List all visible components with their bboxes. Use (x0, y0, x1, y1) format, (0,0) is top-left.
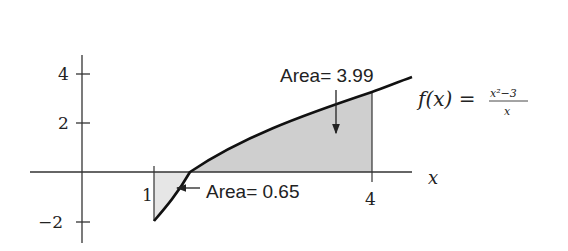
x-axis-label: x (428, 167, 438, 188)
function-numerator: x²−3 (490, 87, 517, 100)
y-tick-label-neg2: −2 (38, 212, 63, 232)
negative-area-label: Area= 0.65 (206, 181, 300, 202)
x-tick-label-4: 4 (365, 189, 376, 209)
function-label: f(x) = (416, 87, 475, 111)
y-tick-label-4: 4 (58, 64, 69, 84)
positive-area-label: Area= 3.99 (280, 65, 374, 86)
function-denominator: x (504, 105, 511, 118)
x-tick-label-1: 1 (142, 185, 153, 205)
y-tick-label-2: 2 (58, 113, 69, 133)
positive-area-region (190, 92, 372, 172)
integral-diagram: 4 2 −2 1 4 x Area= 3.99 Area= 0.65 f(x) … (0, 0, 568, 251)
